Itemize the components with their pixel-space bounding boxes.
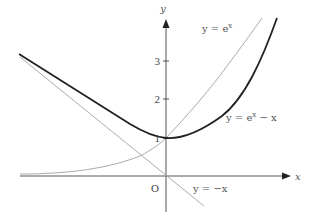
x-axis-label: x — [295, 171, 301, 182]
series-neg-x — [20, 57, 204, 206]
y-tick-label-3: 3 — [155, 55, 161, 67]
y-axis-arrow-icon — [163, 19, 170, 28]
y-axis-label: y — [159, 3, 166, 14]
y-tick-label-2: 2 — [155, 93, 161, 105]
y-tick-label-1: 1 — [155, 132, 161, 144]
x-axis-arrow-icon — [282, 173, 291, 180]
legend-exp-minus-x: y = ex − x — [225, 111, 277, 123]
origin-label: O — [151, 182, 159, 194]
series-exp — [20, 18, 262, 174]
legend-exp: y = ex — [201, 22, 232, 34]
legend-neg-x: y = −x — [192, 183, 228, 194]
chart-svg: y x O 1 2 3 y = ex y = ex − x y = −x — [0, 0, 309, 215]
chart-figure: y x O 1 2 3 y = ex y = ex − x y = −x — [0, 0, 309, 215]
